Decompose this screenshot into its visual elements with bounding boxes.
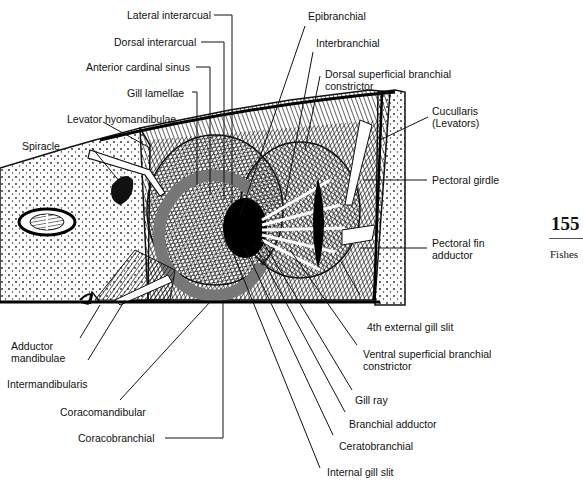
label-gill-lamellae: Gill lamellae [127, 87, 184, 99]
label-interbranchial: Interbranchial [316, 37, 380, 49]
label-pectoral-girdle: Pectoral girdle [432, 174, 499, 186]
label-lateral-interarcual: Lateral interarcual [127, 9, 211, 21]
page-number: 155 [551, 213, 580, 235]
label-4th-external-gill-slit: 4th external gill slit [367, 321, 453, 333]
label-levator-hyomandibulae: Levator hyomandibulae [67, 113, 176, 125]
label-ventral-superficial-branchial-constrictor: Ventral superficial branchial constricto… [363, 348, 503, 372]
section-title: Fishes [550, 248, 578, 260]
label-ceratobranchial: Ceratobranchial [339, 440, 413, 452]
label-spiracle: Spiracle [22, 140, 60, 152]
label-coracomandibular: Coracomandibular [60, 406, 146, 418]
label-coracobranchial: Coracobranchial [78, 432, 154, 444]
label-gill-ray: Gill ray [355, 394, 388, 406]
label-pectoral-fin-adductor: Pectoral fin adductor [432, 237, 502, 261]
label-branchial-adductor: Branchial adductor [349, 418, 437, 430]
label-internal-gill-slit: Internal gill slit [327, 466, 394, 478]
label-adductor-mandibulae: Adductor mandibulae [11, 340, 81, 364]
label-dorsal-superficial-branchial-constrictor: Dorsal superficial branchial constrictor [325, 68, 475, 92]
label-anterior-cardinal-sinus: Anterior cardinal sinus [86, 61, 190, 73]
label-intermandibularis: Intermandibularis [7, 378, 88, 390]
page-number-rule [549, 238, 583, 239]
label-dorsal-interarcual: Dorsal interarcual [114, 36, 196, 48]
label-cucullaris: Cucullaris (Levators) [432, 105, 502, 129]
label-epibranchial: Epibranchial [308, 10, 366, 22]
